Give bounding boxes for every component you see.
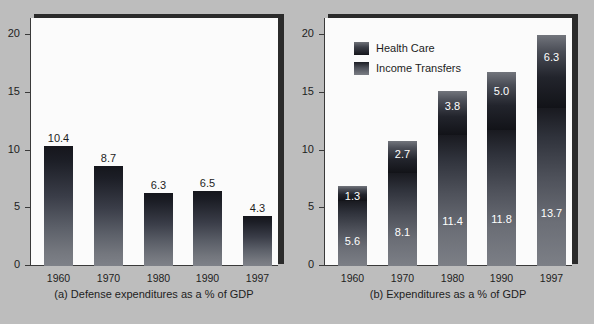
- bar-value-label: 6.5: [200, 177, 215, 189]
- bar-segment-value-label: 11.8: [491, 213, 512, 225]
- y-axis-tick-label: 10: [302, 143, 314, 156]
- bar: 6.3: [144, 193, 173, 266]
- chart-panel-b: Health Care Income Transfers 05101520196…: [318, 14, 578, 276]
- bar-value-label: 4.3: [250, 202, 265, 214]
- bar: 10.4: [44, 146, 73, 266]
- legend-item-health-care: Health Care: [354, 42, 461, 55]
- y-axis-tick-label: 10: [8, 143, 20, 156]
- figure-container: 051015201960197019801990199710.48.76.36.…: [0, 0, 594, 324]
- x-axis-tick-label: 1980: [431, 272, 475, 284]
- x-axis-tick-label: 1997: [530, 272, 574, 284]
- x-axis-tick-label: 1980: [137, 272, 181, 284]
- x-axis-tick-label: 1960: [37, 272, 81, 284]
- bar-segment-value-label: 8.1: [395, 226, 410, 238]
- bar-segment-health-care: 2.7: [388, 141, 417, 172]
- legend-label-health-care: Health Care: [376, 42, 435, 55]
- y-axis-tick: 5: [25, 207, 31, 208]
- bar-segment-health-care: 6.3: [537, 35, 566, 108]
- y-axis-tick: 15: [319, 92, 325, 93]
- y-axis-tick-label: 5: [14, 200, 20, 213]
- panel-b-caption: (b) Expenditures as a % of GDP: [318, 288, 578, 300]
- bar-segment-value-label: 11.4: [442, 215, 463, 227]
- bar-segment-value-label: 5.0: [494, 85, 509, 97]
- bar-segment-value-label: 13.7: [541, 207, 562, 219]
- x-axis-tick-label: 1997: [236, 272, 280, 284]
- income-transfers-swatch: [354, 62, 369, 75]
- bar: 4.3: [243, 216, 272, 266]
- x-axis-tick-label: 1960: [331, 272, 375, 284]
- x-axis-tick-label: 1970: [87, 272, 131, 284]
- x-axis-tick-label: 1990: [480, 272, 524, 284]
- panel-a-plot-area: 051015201960197019801990199710.48.76.36.…: [30, 18, 278, 266]
- health-care-swatch: [354, 42, 369, 55]
- y-axis-tick: 5: [319, 207, 325, 208]
- bar-segment-income-transfers: 11.8: [487, 130, 516, 266]
- chart-panel-a: 051015201960197019801990199710.48.76.36.…: [24, 14, 284, 276]
- y-axis-tick: 10: [319, 150, 325, 151]
- y-axis-tick: 10: [25, 150, 31, 151]
- y-axis-tick-label: 20: [302, 27, 314, 40]
- bar: 8.7: [94, 166, 123, 266]
- y-axis-tick-label: 15: [302, 85, 314, 98]
- panel-a-y-axis: [30, 18, 31, 266]
- bar-segment-income-transfers: 5.6: [338, 201, 367, 266]
- panel-a-caption: (a) Defense expenditures as a % of GDP: [24, 288, 284, 300]
- y-axis-tick: 20: [25, 34, 31, 35]
- bar-segment-health-care: 1.3: [338, 186, 367, 201]
- bar-segment-income-transfers: 13.7: [537, 108, 566, 266]
- legend-label-income-transfers: Income Transfers: [376, 62, 461, 75]
- bar-segment-income-transfers: 8.1: [388, 173, 417, 266]
- bar-segment-health-care: 5.0: [487, 72, 516, 130]
- panel-b-plot-area: Health Care Income Transfers 05101520196…: [324, 18, 572, 266]
- bar-segment-value-label: 3.8: [445, 100, 460, 112]
- y-axis-tick-label: 0: [308, 258, 314, 271]
- y-axis-tick-label: 20: [8, 27, 20, 40]
- bar-value-label: 8.7: [101, 152, 116, 164]
- x-axis-tick-label: 1990: [186, 272, 230, 284]
- bar-segment-value-label: 5.6: [345, 235, 360, 247]
- y-axis-tick: 20: [319, 34, 325, 35]
- y-axis-tick-label: 15: [8, 85, 20, 98]
- bar-value-label: 10.4: [48, 132, 69, 144]
- legend-item-income-transfers: Income Transfers: [354, 62, 461, 75]
- y-axis-tick-label: 0: [14, 258, 20, 271]
- panel-b-y-axis: [324, 18, 325, 266]
- bar-segment-value-label: 2.7: [395, 148, 410, 160]
- y-axis-tick: 0: [319, 265, 325, 266]
- bar-value-label: 6.3: [151, 179, 166, 191]
- bar-segment-value-label: 6.3: [544, 51, 559, 63]
- y-axis-tick-label: 5: [308, 200, 314, 213]
- y-axis-tick: 15: [25, 92, 31, 93]
- bar: 6.5: [193, 191, 222, 266]
- bar-segment-income-transfers: 11.4: [438, 135, 467, 266]
- x-axis-tick-label: 1970: [381, 272, 425, 284]
- panel-b-legend: Health Care Income Transfers: [354, 42, 461, 82]
- bar-segment-health-care: 3.8: [438, 91, 467, 135]
- y-axis-tick: 0: [25, 265, 31, 266]
- bar-segment-value-label: 1.3: [345, 190, 360, 202]
